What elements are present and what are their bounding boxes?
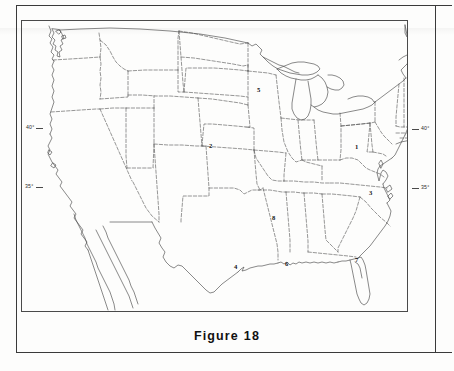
map-marker-3: 3 — [369, 189, 372, 196]
scanned-page: 40° 35° 40° 35° 1 2 3 4 5 6 7 8 Figure18 — [0, 0, 454, 371]
lat-tick-right-40 — [412, 129, 419, 130]
map-marker-8: 8 — [272, 214, 275, 221]
figure-caption-number: 18 — [244, 329, 260, 343]
map-marker-1: 1 — [355, 143, 358, 150]
lat-tick-right-35 — [412, 188, 419, 189]
figure-caption: Figure18 — [0, 329, 454, 343]
lat-label-right-35: 35° — [421, 184, 429, 190]
lat-tick-left-40 — [36, 128, 43, 129]
map-marker-6: 6 — [285, 260, 288, 267]
us-outline-map — [0, 0, 454, 371]
lat-label-left-35: 35° — [25, 183, 33, 189]
figure-caption-label: Figure — [194, 329, 239, 343]
lat-label-right-40: 40° — [421, 125, 429, 131]
map-marker-2: 2 — [209, 142, 212, 149]
map-marker-7: 7 — [355, 256, 358, 263]
lat-tick-left-35 — [36, 187, 43, 188]
map-marker-5: 5 — [257, 86, 260, 93]
map-marker-4: 4 — [234, 263, 237, 270]
lat-label-left-40: 40° — [26, 124, 34, 130]
